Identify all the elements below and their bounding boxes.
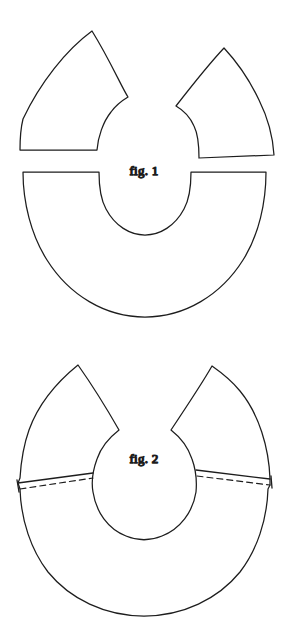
figure-sheet: fig. 1 fig. 2 bbox=[0, 0, 289, 620]
figure-2-label: fig. 2 bbox=[129, 451, 158, 466]
pattern-diagram-canvas: fig. 1 fig. 2 bbox=[0, 0, 289, 620]
figure-1-label: fig. 1 bbox=[129, 163, 158, 178]
page-background bbox=[0, 0, 289, 620]
